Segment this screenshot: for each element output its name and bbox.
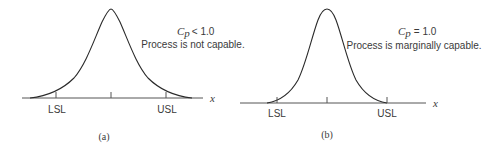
usl-label-b: USL [377,108,397,119]
cp-label-a: Cp< 1.0 [177,25,215,39]
normal-curve-b [267,9,387,103]
cp-label-b: Cp= 1.0 [398,25,437,39]
description-b: Process is marginally capable. [346,40,481,51]
axis-label-a: x [209,92,215,104]
lsl-label-b: LSL [268,108,286,119]
axis-label-b: x [432,97,438,109]
description-a: Process is not capable. [141,39,244,50]
panel-b: x LSL USL (b) Cp= 1.0 Process is margina… [240,9,482,141]
lsl-label-a: LSL [48,104,66,115]
panel-a: x LSL USL (a) Cp< 1.0 Process is not cap… [22,9,245,143]
caption-b: (b) [321,129,333,141]
normal-curve-a [30,9,192,98]
usl-label-a: USL [157,104,177,115]
caption-a: (a) [98,131,109,143]
process-capability-figure: x LSL USL (a) Cp< 1.0 Process is not cap… [0,0,494,150]
